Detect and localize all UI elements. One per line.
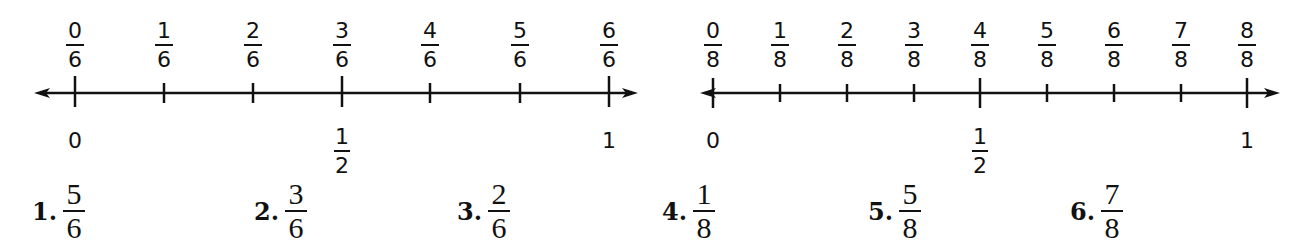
- tick-label: 38: [905, 20, 923, 71]
- numerator: 0: [68, 20, 82, 42]
- problem-number: 1.: [32, 197, 57, 226]
- problem-fraction: 18: [693, 180, 715, 242]
- denominator: 6: [157, 49, 171, 71]
- tick-label: 16: [155, 20, 173, 71]
- numerator: 5: [513, 20, 527, 42]
- numerator: 3: [335, 20, 349, 42]
- numerator: 0: [706, 20, 720, 42]
- problem-number: 3.: [457, 197, 482, 226]
- tick-label: 56: [511, 20, 529, 71]
- problem-fraction: 78: [1101, 180, 1123, 242]
- problem-3: 3.26: [457, 180, 510, 242]
- denominator: 8: [973, 49, 987, 71]
- numerator: 2: [840, 20, 854, 42]
- denominator: 8: [1174, 49, 1188, 71]
- problem-2: 2.36: [254, 180, 307, 242]
- numerator: 2: [246, 20, 260, 42]
- number-line-sixths: [34, 76, 638, 107]
- problem-fraction: 26: [488, 180, 510, 242]
- half-label: 12: [334, 126, 350, 177]
- denominator: 6: [335, 49, 349, 71]
- denominator: 8: [907, 49, 921, 71]
- numerator: 8: [1240, 20, 1254, 42]
- one-label: 1: [602, 128, 616, 153]
- denominator: 6: [602, 49, 616, 71]
- tick-label: 06: [66, 20, 84, 71]
- denominator: 2: [973, 155, 987, 177]
- denominator: 6: [246, 49, 260, 71]
- numerator: 1: [973, 126, 987, 148]
- tick-label: 66: [600, 20, 618, 71]
- denominator: 6: [423, 49, 437, 71]
- one-label: 1: [1240, 128, 1254, 153]
- denominator: 8: [840, 49, 854, 71]
- tick-label: 18: [771, 20, 789, 71]
- problem-4: 4.18: [662, 180, 715, 242]
- tick-label: 88: [1238, 20, 1256, 71]
- problem-fraction: 56: [63, 180, 85, 242]
- number-line-eighths: [700, 78, 1280, 108]
- tick-label: 58: [1038, 20, 1056, 71]
- problem-1: 1.56: [32, 180, 85, 242]
- tick-label: 68: [1105, 20, 1123, 71]
- problem-number: 2.: [254, 197, 279, 226]
- half-label: 12: [972, 126, 988, 177]
- numerator: 6: [602, 20, 616, 42]
- tick-label: 08: [704, 20, 722, 71]
- tick-label: 28: [838, 20, 856, 71]
- tick-label: 48: [971, 20, 989, 71]
- numerator: 1: [157, 20, 171, 42]
- problem-number: 6.: [1070, 197, 1095, 226]
- numerator: 1: [335, 126, 349, 148]
- numerator: 6: [1107, 20, 1121, 42]
- zero-label: 0: [68, 128, 82, 153]
- problem-number: 4.: [662, 197, 687, 226]
- denominator: 8: [1240, 49, 1254, 71]
- problem-5: 5.58: [868, 180, 921, 242]
- denominator: 2: [335, 155, 349, 177]
- numerator: 7: [1174, 20, 1188, 42]
- numerator: 1: [773, 20, 787, 42]
- denominator: 8: [706, 49, 720, 71]
- problem-number: 5.: [868, 197, 893, 226]
- tick-label: 26: [244, 20, 262, 71]
- denominator: 8: [1107, 49, 1121, 71]
- denominator: 6: [68, 49, 82, 71]
- denominator: 8: [773, 49, 787, 71]
- problem-6: 6.78: [1070, 180, 1123, 242]
- problem-fraction: 36: [285, 180, 307, 242]
- numerator: 4: [973, 20, 987, 42]
- denominator: 8: [1040, 49, 1054, 71]
- zero-label: 0: [706, 128, 720, 153]
- numerator: 3: [907, 20, 921, 42]
- numerator: 5: [1040, 20, 1054, 42]
- numerator: 4: [423, 20, 437, 42]
- tick-label: 46: [421, 20, 439, 71]
- tick-label: 78: [1172, 20, 1190, 71]
- problem-fraction: 58: [899, 180, 921, 242]
- tick-label: 36: [333, 20, 351, 71]
- denominator: 6: [513, 49, 527, 71]
